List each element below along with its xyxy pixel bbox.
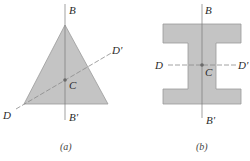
caption-a: (a): [60, 141, 72, 153]
label-c-b: C: [205, 66, 213, 78]
label-b-prime-b: B': [206, 114, 216, 126]
label-b-b: B: [205, 4, 212, 16]
figure-a: B B' D D' C (a): [2, 4, 123, 153]
label-d-prime-a: D': [111, 44, 123, 56]
centroid-axes-diagram: B B' D D' C (a) B B' D D' C (b): [0, 0, 250, 161]
triangle-shape: [24, 25, 108, 104]
caption-b: (b): [196, 141, 208, 153]
label-d-b: D: [154, 59, 163, 71]
centroid-point-a: [63, 78, 67, 82]
label-b-a: B: [69, 4, 76, 16]
label-c-a: C: [69, 79, 77, 91]
centroid-point-b: [200, 63, 204, 67]
label-d-a: D: [2, 109, 11, 121]
label-b-prime-a: B': [69, 111, 79, 123]
label-d-prime-b: D': [237, 59, 249, 71]
figure-b: B B' D D' C (b): [154, 4, 249, 153]
